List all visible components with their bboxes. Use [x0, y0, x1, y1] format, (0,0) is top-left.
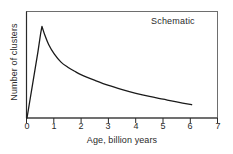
x-tick-label-7: 7 — [210, 121, 226, 131]
x-tick-label-3: 3 — [100, 121, 116, 131]
x-tick-label-6: 6 — [182, 121, 198, 131]
chart-figure: 0 1 2 3 4 5 6 7 Number of clusters Age, … — [0, 0, 233, 154]
x-tick-label-1: 1 — [46, 121, 62, 131]
x-axis-label: Age, billion years — [26, 135, 218, 145]
data-curve — [27, 26, 192, 118]
y-axis-label: Number of clusters — [9, 7, 19, 117]
plot-frame — [27, 12, 218, 119]
x-tick-label-4: 4 — [128, 121, 144, 131]
x-tick-label-2: 2 — [73, 121, 89, 131]
chart-annotation: Schematic — [151, 16, 195, 26]
x-tick-label-0: 0 — [19, 121, 35, 131]
x-tick-label-5: 5 — [155, 121, 171, 131]
